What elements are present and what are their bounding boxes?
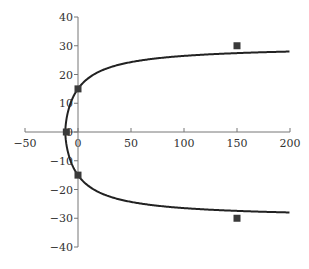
axes: −50050100150200−40−30−20−10010203040 xyxy=(13,11,300,254)
x-tick-label: 150 xyxy=(227,137,248,150)
x-tick-label: 100 xyxy=(174,137,195,150)
square-marker xyxy=(234,215,241,222)
y-tick-label: 20 xyxy=(59,69,73,82)
square-marker xyxy=(75,85,82,92)
x-tick-label: −50 xyxy=(13,137,36,150)
square-marker xyxy=(234,42,241,49)
square-marker xyxy=(75,172,82,179)
square-marker xyxy=(63,129,70,136)
y-tick-label: −40 xyxy=(50,241,73,254)
curve-upper-branch xyxy=(65,52,289,132)
y-tick-label: −30 xyxy=(50,212,73,225)
x-tick-label: 200 xyxy=(280,137,301,150)
y-tick-label: −20 xyxy=(50,184,73,197)
y-tick-label: 30 xyxy=(59,40,73,53)
chart: −50050100150200−40−30−20−10010203040 xyxy=(0,0,309,269)
x-tick-label: 50 xyxy=(124,137,138,150)
y-tick-label: 40 xyxy=(59,11,73,24)
